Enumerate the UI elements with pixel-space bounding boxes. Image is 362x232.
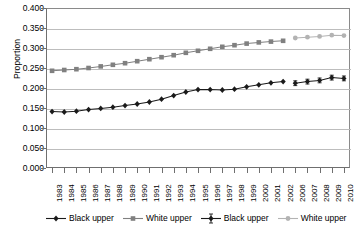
x-axis-tick-mark: [320, 168, 321, 173]
x-axis-tick-mark: [125, 168, 126, 173]
x-axis-tick-label: 1997: [226, 160, 234, 202]
data-point: [86, 66, 91, 71]
y-axis-tick-label: 0.400: [14, 4, 44, 12]
chart-legend: Black upperWhite upperBlack upperWhite u…: [46, 210, 356, 226]
data-point: [147, 57, 152, 62]
x-axis-tick-mark: [259, 168, 260, 173]
x-axis-tick-label: 1991: [153, 160, 161, 202]
x-axis-tick-mark: [174, 168, 175, 173]
x-axis-tick-label: 2001: [274, 160, 282, 202]
data-point: [62, 68, 67, 73]
legend-marker-diamond-icon: [46, 213, 66, 224]
x-axis-tick-mark: [295, 168, 296, 173]
legend-label: White upper: [146, 213, 192, 223]
x-axis-tick-mark: [271, 168, 272, 173]
data-point: [110, 104, 115, 110]
legend-item-1[interactable]: White upper: [123, 213, 192, 224]
data-series-layer: [46, 8, 350, 168]
data-point: [122, 103, 127, 109]
x-axis-tick-label: 1994: [189, 160, 197, 202]
chart-figure: Proportion 0.0000.0500.1000.1500.2000.25…: [0, 0, 362, 232]
data-point: [123, 61, 128, 66]
y-axis-tick-label: 0.100: [14, 124, 44, 132]
data-point: [135, 101, 140, 107]
data-point: [268, 80, 273, 86]
data-point: [159, 55, 164, 60]
data-point: [147, 99, 152, 105]
data-point: [244, 84, 249, 90]
x-axis-tick-mark: [52, 168, 53, 173]
data-point: [183, 89, 188, 95]
x-axis-tick-mark: [162, 168, 163, 173]
series-1: [50, 39, 286, 74]
legend-label: Black upper: [224, 213, 269, 223]
x-axis-tick-mark: [210, 168, 211, 173]
y-axis-tick-label: 0.000: [14, 164, 44, 172]
data-point: [171, 53, 176, 58]
x-axis-tick-label: 1995: [202, 160, 210, 202]
x-axis-tick-mark: [307, 168, 308, 173]
data-point: [317, 34, 322, 39]
x-axis-tick-mark: [247, 168, 248, 173]
legend-item-2[interactable]: Black upper: [201, 213, 269, 224]
data-point: [220, 87, 225, 93]
x-axis-tick-label: 2010: [347, 160, 355, 202]
data-point: [196, 49, 201, 54]
x-axis-tick-label: 2000: [262, 160, 270, 202]
data-point: [269, 39, 274, 44]
data-point: [98, 64, 103, 69]
data-point: [74, 67, 79, 72]
x-axis-tick-mark: [344, 168, 345, 173]
data-point: [195, 87, 200, 93]
x-axis-tick-label: 1983: [56, 160, 64, 202]
x-axis-tick-mark: [186, 168, 187, 173]
data-point: [171, 93, 176, 99]
data-point: [62, 109, 67, 115]
x-axis-tick-label: 1987: [104, 160, 112, 202]
x-axis-tick-mark: [283, 168, 284, 173]
series-3: [293, 33, 346, 41]
data-point: [50, 69, 55, 74]
x-axis-tick-mark: [64, 168, 65, 173]
y-axis-tick-label: 0.350: [14, 24, 44, 32]
x-axis-tick-label: 1985: [80, 160, 88, 202]
data-point: [256, 82, 261, 88]
x-axis-tick-label: 1986: [92, 160, 100, 202]
data-point: [208, 47, 213, 52]
x-axis-tick-label: 1988: [116, 160, 124, 202]
data-point: [86, 107, 91, 113]
data-point: [232, 43, 237, 48]
data-point: [184, 51, 189, 56]
legend-marker-circle-icon: [278, 213, 298, 224]
x-axis-tick-mark: [332, 168, 333, 173]
x-axis-tick-mark: [222, 168, 223, 173]
data-point: [135, 59, 140, 64]
x-axis-tick-mark: [76, 168, 77, 173]
y-axis-tick-label: 0.300: [14, 44, 44, 52]
x-axis-tick-label: 1993: [177, 160, 185, 202]
y-axis-tick-label: 0.200: [14, 84, 44, 92]
series-2: [293, 75, 347, 86]
x-axis-tick-label: 1989: [129, 160, 137, 202]
y-axis-tick-label: 0.050: [14, 144, 44, 152]
x-axis-tick-mark: [113, 168, 114, 173]
x-axis-tick-mark: [101, 168, 102, 173]
data-point: [220, 45, 225, 50]
x-axis-tick-mark: [198, 168, 199, 173]
x-axis-tick-label: 2008: [323, 160, 331, 202]
x-axis-tick-label: 2002: [287, 160, 295, 202]
x-axis-tick-label: 1992: [165, 160, 173, 202]
legend-item-3[interactable]: White upper: [278, 213, 347, 224]
data-point: [329, 33, 334, 38]
x-axis-tick-label: 2009: [335, 160, 343, 202]
series-0: [49, 79, 285, 115]
legend-item-0[interactable]: Black upper: [46, 213, 114, 224]
data-point: [281, 79, 286, 85]
data-point: [232, 86, 237, 92]
data-point: [111, 63, 116, 68]
legend-label: Black upper: [69, 213, 114, 223]
x-axis-tick-label: 1996: [214, 160, 222, 202]
data-point: [159, 96, 164, 102]
legend-label: White upper: [301, 213, 347, 223]
y-axis-tick-label: 0.150: [14, 104, 44, 112]
